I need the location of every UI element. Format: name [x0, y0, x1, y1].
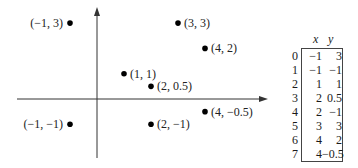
- table-row: 1−1−1: [286, 63, 354, 77]
- cell-x: 3: [304, 119, 322, 133]
- data-point: [202, 109, 208, 115]
- point-label: (−1, −1): [23, 118, 63, 130]
- cell-x: 4: [304, 147, 322, 161]
- cell-y: 3: [322, 49, 342, 63]
- cell-x: −1: [304, 49, 322, 63]
- cell-y: −1: [322, 105, 342, 119]
- point-label: (3, 3): [184, 17, 210, 29]
- cell-y: 3: [322, 119, 342, 133]
- cell-y: −1: [322, 63, 342, 77]
- point-label: (4, 2): [211, 42, 237, 54]
- data-point: [121, 71, 127, 77]
- data-point: [148, 84, 154, 90]
- cell-y: 1: [322, 77, 342, 91]
- y-axis-arrow-icon: [94, 7, 100, 16]
- data-point: [202, 46, 208, 52]
- cell-x: 2: [304, 105, 322, 119]
- cell-x: −1: [304, 63, 322, 77]
- column-header-y: y: [328, 33, 333, 45]
- point-label: (4, −0.5): [211, 106, 253, 118]
- table-row: 533: [286, 119, 354, 133]
- table-row: 42−1: [286, 105, 354, 119]
- point-label: (2, 0.5): [157, 80, 192, 92]
- cell-x: 4: [304, 133, 322, 147]
- row-index: 1: [286, 63, 298, 77]
- point-label: (2, −1): [157, 118, 190, 130]
- table-row: 320.5: [286, 91, 354, 105]
- data-table: x y 0−131−1−1211320.542−153364274−0.5: [286, 30, 354, 166]
- point-label: (1, 1): [130, 68, 156, 80]
- cell-y: 0.5: [322, 91, 342, 105]
- data-point: [148, 122, 154, 128]
- row-index: 6: [286, 133, 298, 147]
- row-index: 7: [286, 147, 298, 161]
- table-row: 642: [286, 133, 354, 147]
- row-index: 0: [286, 49, 298, 63]
- x-axis-arrow-icon: [259, 96, 268, 102]
- cell-x: 2: [304, 91, 322, 105]
- cell-x: 1: [304, 77, 322, 91]
- point-label: (−1, 3): [30, 17, 63, 29]
- table-row: 211: [286, 77, 354, 91]
- row-index: 4: [286, 105, 298, 119]
- cell-y: 2: [322, 133, 342, 147]
- data-point: [175, 20, 181, 26]
- data-point: [67, 122, 73, 128]
- table-row: 74−0.5: [286, 147, 354, 161]
- row-index: 5: [286, 119, 298, 133]
- row-index: 2: [286, 77, 298, 91]
- table-row: 0−13: [286, 49, 354, 63]
- scatter-plot: (−1, 3)(−1, −1)(1, 1)(2, 0.5)(2, −1)(3, …: [0, 0, 280, 168]
- cell-y: −0.5: [322, 147, 342, 161]
- column-header-x: x: [313, 33, 318, 45]
- data-point: [67, 20, 73, 26]
- row-index: 3: [286, 91, 298, 105]
